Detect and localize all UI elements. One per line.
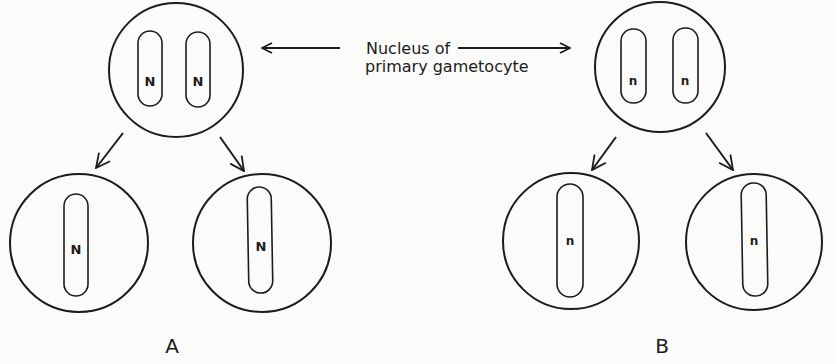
panel-a-daughter-left: N xyxy=(10,174,148,312)
nucleus-circle xyxy=(595,2,725,132)
chromosome-label: N xyxy=(71,242,82,257)
panel-b-daughter-left: n xyxy=(503,173,639,309)
nucleus-circle xyxy=(109,3,243,137)
chromosome-label: N xyxy=(193,74,204,89)
panel-b-parent-nucleus: n n xyxy=(595,2,725,132)
panel-b-daughter-right: n xyxy=(686,174,822,310)
chromosome xyxy=(673,28,698,103)
chromosome-label: n xyxy=(629,74,638,88)
division-arrow-left xyxy=(96,133,123,168)
division-arrow-right xyxy=(220,137,244,171)
chromosome-label: n xyxy=(681,74,690,88)
panel-a: N N N N A xyxy=(10,3,331,358)
chromosome-label: N xyxy=(256,239,267,254)
chromosome-label: n xyxy=(566,234,575,248)
chromosome xyxy=(186,32,210,107)
division-arrow-left xyxy=(592,137,616,170)
panel-label-b: B xyxy=(655,334,669,358)
chromosome-label: N xyxy=(145,74,156,89)
panel-a-parent-nucleus: N N xyxy=(109,3,243,137)
panel-a-daughter-right: N xyxy=(193,174,331,312)
caption-line-1: Nucleus of xyxy=(366,39,451,58)
panel-label-a: A xyxy=(165,334,179,358)
division-arrow-right xyxy=(706,133,733,170)
chromosome-label: n xyxy=(750,234,759,248)
center-caption: Nucleus of primary gametocyte xyxy=(262,39,570,76)
meiosis-diagram: N N N N A Nucleus of xyxy=(0,0,837,364)
caption-line-2: primary gametocyte xyxy=(365,57,529,76)
chromosome xyxy=(138,31,162,106)
panel-b: n n n n B xyxy=(503,2,822,358)
chromosome xyxy=(621,29,646,103)
